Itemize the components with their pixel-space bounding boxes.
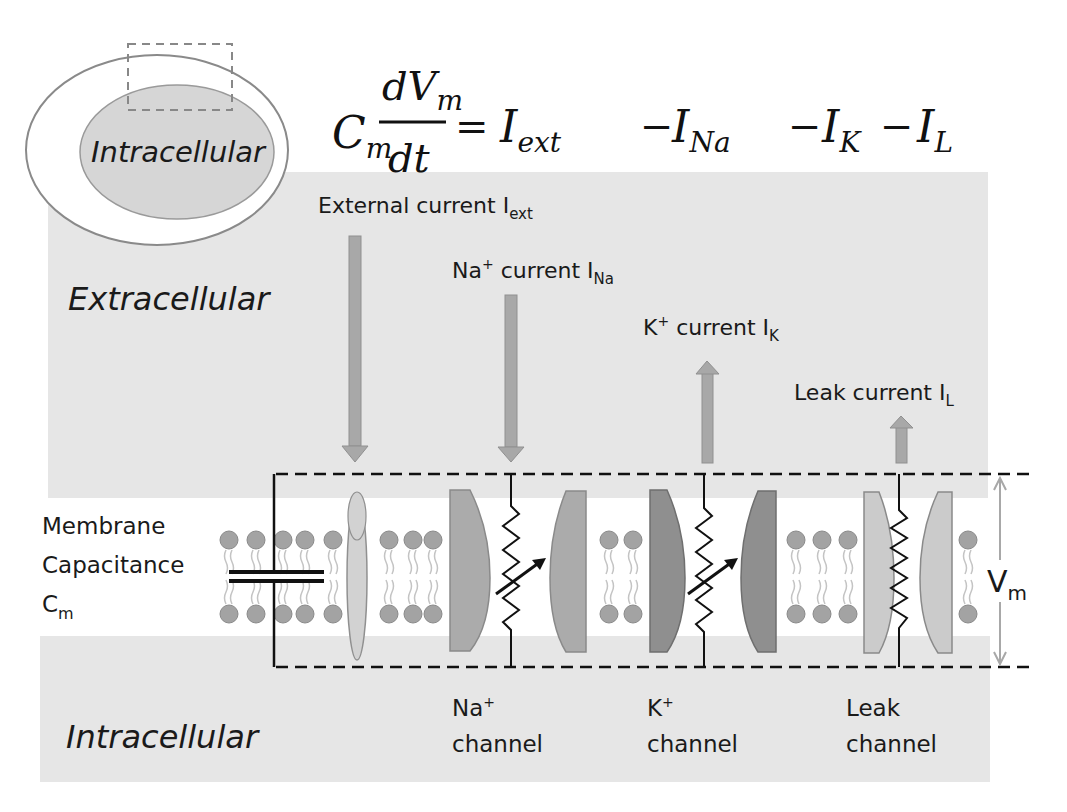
svg-text:−: − bbox=[880, 103, 914, 149]
svg-text:−: − bbox=[640, 103, 674, 149]
svg-text:dVm: dVm bbox=[382, 63, 463, 117]
transmembrane-oval-icon bbox=[347, 492, 367, 660]
svg-text:channel: channel bbox=[647, 731, 738, 757]
membrane-equation: Cm dVm dt = Iext − INa − IK − IL bbox=[332, 63, 953, 181]
svg-text:Cm: Cm bbox=[332, 107, 392, 165]
hodgkin-huxley-diagram: Intracellular Cm dVm dt = Iext − INa − I… bbox=[0, 0, 1067, 812]
svg-text:Iext: Iext bbox=[499, 101, 562, 159]
svg-text:=: = bbox=[455, 103, 489, 149]
svg-text:channel: channel bbox=[846, 731, 937, 757]
svg-text:dt: dt bbox=[388, 135, 431, 181]
svg-text:INa: INa bbox=[671, 101, 731, 159]
svg-text:IK: IK bbox=[821, 101, 862, 159]
svg-text:−: − bbox=[788, 103, 822, 149]
inset-intracellular-label: Intracellular bbox=[91, 135, 267, 169]
svg-text:channel: channel bbox=[452, 731, 543, 757]
svg-text:IL: IL bbox=[916, 101, 953, 159]
cell-inset: Intracellular bbox=[26, 44, 288, 245]
extracellular-label: Extracellular bbox=[68, 280, 271, 318]
intracellular-label: Intracellular bbox=[66, 718, 260, 756]
vm-label: Vm bbox=[987, 564, 1027, 605]
leak-channel-label: Leak bbox=[846, 695, 901, 721]
